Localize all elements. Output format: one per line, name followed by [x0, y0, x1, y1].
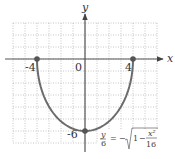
- svg-text:−: −: [139, 134, 146, 143]
- marked-point: [130, 56, 136, 62]
- svg-text:=: =: [110, 134, 117, 143]
- svg-text:−: −: [119, 134, 126, 143]
- svg-text:1: 1: [133, 134, 138, 143]
- x-axis-label: x: [167, 52, 174, 65]
- y-axis-label: y: [81, 1, 89, 14]
- svg-text:16: 16: [146, 140, 156, 149]
- marked-point: [34, 56, 40, 62]
- chart: x y -4 0 4 -6 y 6 = − 1 − x² 16: [0, 0, 175, 159]
- marked-point: [82, 128, 88, 134]
- x-tick-neg4: -4: [25, 61, 36, 74]
- svg-text:y: y: [100, 130, 106, 139]
- equation-label: y 6 = − 1 − x² 16: [98, 128, 160, 154]
- x-tick-4: 4: [125, 61, 132, 74]
- svg-text:6: 6: [101, 139, 106, 148]
- x-tick-0: 0: [75, 61, 82, 74]
- svg-text:x²: x²: [148, 129, 156, 138]
